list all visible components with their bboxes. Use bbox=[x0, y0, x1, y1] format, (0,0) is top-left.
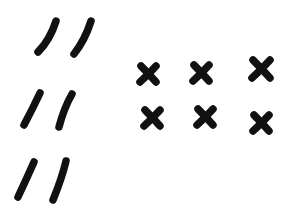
hand-drawn-marks bbox=[0, 0, 289, 221]
slash-stroke bbox=[38, 21, 56, 52]
double-slash-row-1 bbox=[38, 21, 91, 54]
slash-stroke bbox=[18, 162, 34, 197]
slash-stroke bbox=[74, 21, 91, 54]
x-mark-icon bbox=[144, 110, 160, 126]
x-mark-icon bbox=[193, 65, 209, 81]
x-mark-icon bbox=[140, 66, 156, 82]
x-marks-group bbox=[140, 60, 270, 131]
sketch-canvas bbox=[0, 0, 289, 221]
x-mark-icon bbox=[253, 115, 269, 131]
x-mark-icon bbox=[252, 60, 270, 78]
slash-stroke bbox=[59, 94, 72, 127]
x-mark-icon bbox=[197, 109, 213, 125]
slash-stroke bbox=[24, 93, 40, 125]
tally-marks-group bbox=[18, 21, 91, 200]
double-slash-row-3 bbox=[18, 161, 66, 200]
double-slash-row-2 bbox=[24, 93, 72, 127]
slash-stroke bbox=[53, 161, 66, 200]
